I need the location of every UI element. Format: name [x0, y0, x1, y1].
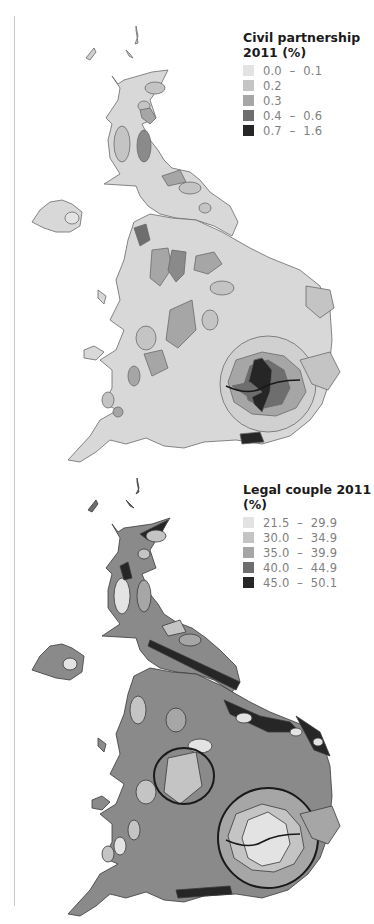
legend-title-line2: 2011 (%) [243, 45, 360, 60]
legend-swatch [243, 547, 254, 558]
legend-swatch [243, 95, 254, 106]
legend-item: 35.0 – 39.9 [243, 545, 374, 560]
legend-item: 0.3 [243, 93, 360, 108]
legend-item: 30.0 – 34.9 [243, 530, 374, 545]
legend-item: 40.0 – 44.9 [243, 560, 374, 575]
legend-item: 0.2 [243, 78, 360, 93]
legend-swatch [243, 110, 254, 121]
civil-partnership-legend: Civil partnership 2011 (%) 0.0 – 0.1 0.2… [243, 30, 360, 138]
legend-swatch [243, 517, 254, 528]
legal-couple-legend: Legal couple 2011 (%) 21.5 – 29.9 30.0 –… [243, 482, 374, 590]
legend-swatch [243, 80, 254, 91]
legend-title: Civil partnership [243, 30, 360, 45]
legend-title: Legal couple 2011 (%) [243, 482, 374, 512]
legend-item: 0.7 – 1.6 [243, 123, 360, 138]
legend-swatch [243, 125, 254, 136]
legend-swatch [243, 65, 254, 76]
legend-swatch [243, 532, 254, 543]
legend-item: 45.0 – 50.1 [243, 575, 374, 590]
civil-partnership-panel: Civil partnership 2011 (%) 0.0 – 0.1 0.2… [0, 0, 374, 470]
legend-swatch [243, 577, 254, 588]
legal-couple-panel: Legal couple 2011 (%) 21.5 – 29.9 30.0 –… [0, 470, 374, 924]
legend-item: 0.0 – 0.1 [243, 63, 360, 78]
legend-item: 21.5 – 29.9 [243, 515, 374, 530]
legend-item: 0.4 – 0.6 [243, 108, 360, 123]
legend-swatch [243, 562, 254, 573]
